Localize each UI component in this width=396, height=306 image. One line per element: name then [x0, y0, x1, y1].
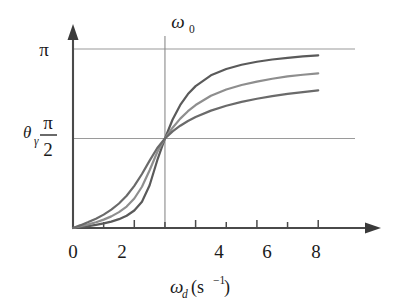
y-axis-arrow-icon	[68, 24, 79, 40]
y-tick-label-half-pi-denominator: 2	[43, 139, 53, 160]
x-tick-label-0: 0	[68, 241, 78, 262]
x-axis-label-subscript: d	[182, 288, 188, 300]
x-axis-arrow-icon	[365, 223, 381, 234]
y-axis-label-theta: θ	[23, 123, 31, 142]
x-tick-label-4: 4	[214, 241, 224, 262]
omega-zero-label: ω	[171, 11, 184, 32]
omega-zero-subscript: 0	[189, 23, 195, 35]
x-axis-unit-open: (s	[191, 277, 204, 298]
x-axis-unit-close: )	[224, 277, 230, 298]
y-tick-label-half-pi-numerator: π	[43, 112, 53, 133]
phase-angle-chart: π π 2 θ γ ω 0 0 2 4 6 8 ω d (s −1 )	[0, 0, 396, 306]
x-tick-label-6: 6	[262, 241, 272, 262]
x-tick-label-8: 8	[311, 241, 321, 262]
curve-high-damping	[73, 90, 318, 228]
y-axis-label-subscript: γ	[34, 135, 39, 148]
y-tick-label-pi: π	[39, 39, 49, 60]
curve-group	[73, 55, 318, 228]
curve-low-damping	[73, 55, 318, 228]
curve-medium-damping	[73, 73, 318, 228]
x-tick-label-2: 2	[117, 241, 127, 262]
chart-svg: π π 2 θ γ ω 0 0 2 4 6 8 ω d (s −1 )	[0, 0, 396, 306]
